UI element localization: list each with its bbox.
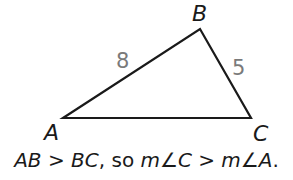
caption-connector: , so <box>99 148 141 172</box>
side-label-bc: 5 <box>232 56 245 80</box>
caption-inequality-angles: m∠C > m∠A <box>140 148 272 172</box>
caption-inequality-sides: AB > BC <box>14 148 99 172</box>
vertex-label-a: A <box>42 120 59 145</box>
side-label-ab: 8 <box>116 49 129 73</box>
vertex-label-c: C <box>253 121 269 146</box>
caption: AB > BC, so m∠C > m∠A. <box>0 148 293 172</box>
vertex-label-b: B <box>192 1 207 26</box>
triangle-abc <box>63 29 251 118</box>
caption-period: . <box>272 148 278 172</box>
